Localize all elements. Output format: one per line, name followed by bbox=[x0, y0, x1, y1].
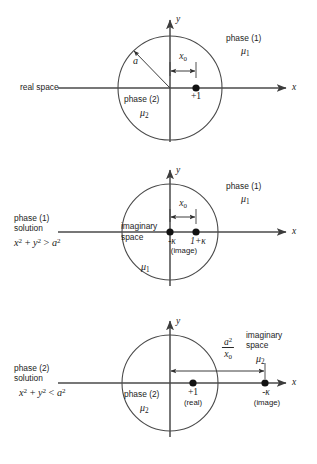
panel2-caption-line2: solution bbox=[14, 224, 43, 233]
source-charge-label-panel2: 1+κ bbox=[190, 236, 206, 247]
real-note-panel3: (real) bbox=[184, 399, 202, 408]
y-axis-label-panel1: y bbox=[176, 14, 180, 25]
real-charge-label-panel3: +1 bbox=[188, 387, 198, 398]
outside-mu-label-panel2: μ1 bbox=[241, 193, 250, 206]
inside-phase-label-panel1: phase (2) bbox=[124, 95, 159, 104]
radius-label-a: a bbox=[133, 55, 138, 66]
image-charge-dot-panel3 bbox=[261, 379, 268, 386]
imaginary-space-label-panel2-line1: imaginary bbox=[121, 222, 157, 231]
panel2-caption-line1: phase (1) bbox=[14, 214, 49, 223]
inside-mu-label-panel3: μ2 bbox=[140, 402, 149, 415]
y-axis-label-panel3: y bbox=[176, 316, 180, 327]
imaginary-space-label-panel3-line2: space bbox=[246, 341, 268, 350]
x-axis-label-panel2: x bbox=[292, 226, 296, 237]
inside-phase-label-panel3: phase (2) bbox=[124, 390, 159, 399]
image-charge-label-panel2: -κ bbox=[168, 236, 176, 247]
y-axis-label-panel2: y bbox=[176, 165, 180, 176]
panel3-caption-line1: phase (2) bbox=[14, 364, 49, 373]
image-charge-label-panel3: -κ bbox=[262, 387, 270, 398]
imaginary-space-label-panel2-line2: space bbox=[121, 233, 143, 242]
source-charge-dot-panel2 bbox=[192, 228, 199, 235]
panel3-caption-line2: solution bbox=[14, 374, 43, 383]
outside-mu-label-panel3: μ2 bbox=[256, 353, 265, 366]
distance-fraction-panel3: a2 x0 bbox=[222, 336, 234, 360]
panel1-caption: real space bbox=[20, 83, 59, 92]
inside-mu-label-panel2: μ1 bbox=[141, 261, 150, 274]
image-note-panel3: (image) bbox=[254, 399, 280, 408]
panel3-equation: x2 + y2 < a2 bbox=[19, 387, 66, 398]
image-note-panel2: (image) bbox=[171, 247, 197, 256]
panel2-equation: x2 + y2 > a2 bbox=[14, 237, 61, 248]
x-axis-label-panel3: x bbox=[292, 377, 296, 388]
x-axis-label-panel1: x bbox=[292, 82, 296, 93]
outside-phase-label-panel1: phase (1) bbox=[226, 34, 261, 43]
radius-arrow-panel1 bbox=[134, 51, 170, 88]
image-charge-dot-panel2 bbox=[166, 228, 173, 235]
imaginary-space-label-panel3-line1: imaginary bbox=[246, 331, 282, 340]
outside-mu-label-panel1: μ1 bbox=[241, 45, 250, 58]
outside-phase-label-panel2: phase (1) bbox=[226, 182, 261, 191]
x0-label-panel2: x0 bbox=[179, 198, 187, 210]
unit-charge-label-panel1: +1 bbox=[191, 91, 201, 102]
inside-mu-label-panel1: μ2 bbox=[140, 107, 149, 120]
x0-label-panel1: x0 bbox=[179, 51, 187, 63]
